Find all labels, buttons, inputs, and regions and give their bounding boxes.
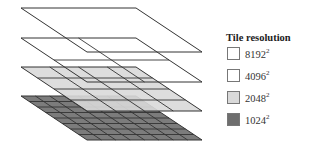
legend-label: 8192	[245, 49, 266, 60]
legend-label: 4096	[245, 71, 266, 82]
legend-item-2048: 20482	[227, 89, 270, 105]
tile-pyramid-diagram	[0, 0, 220, 151]
swatch-1024	[227, 113, 240, 126]
swatch-4096	[227, 69, 240, 82]
legend-item-4096: 40962	[227, 67, 270, 83]
swatch-2048	[227, 91, 240, 104]
swatch-8192	[227, 47, 240, 60]
legend-label: 2048	[245, 93, 266, 104]
legend-title: Tile resolution	[226, 32, 318, 44]
legend-item-1024: 10242	[227, 111, 270, 127]
legend-label: 1024	[245, 115, 266, 126]
legend-item-8192: 81922	[227, 45, 270, 61]
legend: Tile resolution 81922 40962 20482 10242	[226, 32, 318, 44]
